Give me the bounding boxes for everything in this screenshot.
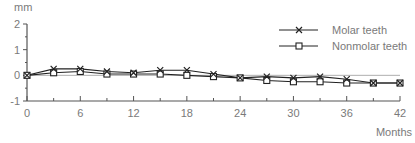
square-marker-icon — [296, 43, 302, 49]
chart-canvas: -101206121824303642 Molar teethNonmolar … — [0, 0, 415, 143]
legend: Molar teethNonmolar teeth — [279, 24, 407, 52]
line-chart: -101206121824303642 Molar teethNonmolar … — [0, 0, 415, 143]
y-tick-label: 0 — [14, 69, 20, 81]
x-tick-label: 30 — [287, 107, 299, 119]
legend-label: Nonmolar teeth — [332, 40, 407, 52]
square-marker-icon — [184, 72, 190, 78]
y-tick-label: 1 — [14, 44, 20, 56]
x-tick-label: 6 — [77, 107, 83, 119]
x-axis-label: Months — [376, 126, 413, 138]
square-marker-icon — [317, 79, 323, 85]
legend-label: Molar teeth — [332, 24, 387, 36]
x-tick-label: 36 — [341, 107, 353, 119]
x-tick-label: 0 — [24, 107, 30, 119]
y-axis-label: mm — [14, 1, 32, 13]
y-tick-label: -1 — [10, 95, 20, 107]
legend-item: Nonmolar teeth — [279, 40, 407, 52]
x-tick-label: 12 — [127, 107, 139, 119]
x-tick-label: 18 — [181, 107, 193, 119]
x-tick-label: 24 — [234, 107, 246, 119]
y-tick-label: 2 — [14, 18, 20, 30]
x-tick-label: 42 — [394, 107, 406, 119]
legend-item: Molar teeth — [279, 24, 387, 36]
series-group — [24, 66, 403, 86]
